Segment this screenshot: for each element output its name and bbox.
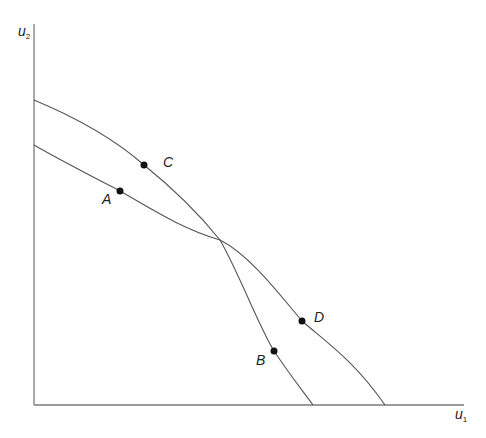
point-c — [141, 162, 148, 169]
frontier-curve-ad — [34, 145, 385, 405]
point-a-label: A — [101, 191, 111, 207]
point-a — [117, 188, 124, 195]
point-d-label: D — [314, 309, 324, 325]
point-c-label: C — [163, 154, 174, 170]
point-b — [271, 348, 278, 355]
utility-frontier-diagram: u2 u1 A C D B — [0, 0, 486, 438]
point-b-label: B — [256, 352, 265, 368]
x-axis-label: u1 — [455, 406, 468, 424]
point-d — [299, 318, 306, 325]
frontier-curve-cb — [34, 100, 313, 405]
y-axis-label: u2 — [18, 23, 31, 41]
